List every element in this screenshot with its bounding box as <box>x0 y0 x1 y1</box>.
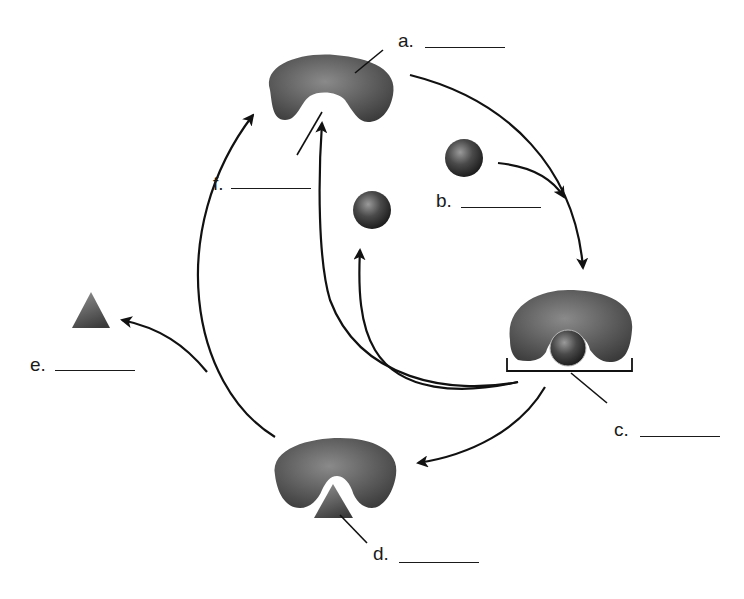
leader-line-f <box>297 112 322 155</box>
substrate-bound <box>550 330 586 366</box>
arrow-product-enzyme-to-free-enzyme <box>198 115 275 437</box>
label-f: f. <box>213 174 224 193</box>
enzyme-substrate-complex <box>507 290 632 403</box>
substrate-released <box>353 191 391 229</box>
product-released <box>72 292 110 328</box>
blank-a[interactable] <box>425 47 505 48</box>
label-e: e. <box>30 355 46 374</box>
arrow-enzyme-to-complex <box>410 75 583 268</box>
label-b: b. <box>436 191 452 210</box>
label-c: c. <box>614 420 629 439</box>
enzyme-free <box>269 55 394 122</box>
arrow-complex-to-substrate-release <box>359 250 518 389</box>
arrow-product-release <box>122 320 207 372</box>
label-a: a. <box>398 31 414 50</box>
blank-b[interactable] <box>461 207 541 208</box>
arrow-complex-to-free-enzyme <box>320 123 518 386</box>
leader-line-c <box>571 373 607 403</box>
blank-c[interactable] <box>640 436 720 437</box>
blank-d[interactable] <box>399 562 479 563</box>
arrow-substrate-to-complex <box>498 163 564 197</box>
enzyme-shape <box>269 55 394 122</box>
substrate-incoming <box>445 139 483 177</box>
leader-line-d <box>340 515 367 543</box>
enzyme-cycle-diagram <box>0 0 744 599</box>
label-d: d. <box>373 544 389 563</box>
blank-e[interactable] <box>55 370 135 371</box>
enzyme-product-complex <box>275 438 397 543</box>
blank-f[interactable] <box>231 188 311 189</box>
arrow-complex-to-product-enzyme <box>418 387 545 463</box>
